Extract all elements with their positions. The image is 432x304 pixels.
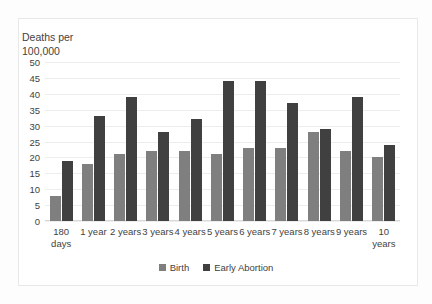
bar-early-abortion [94, 116, 105, 221]
bar-birth [308, 132, 319, 221]
bar-birth [50, 196, 61, 221]
bar-early-abortion [223, 81, 234, 221]
bar-early-abortion [384, 145, 395, 221]
bar-early-abortion [126, 97, 137, 221]
y-axis-tick-label: 20 [10, 152, 40, 163]
plot-area: 05101520253035404550 [45, 62, 400, 221]
legend-label: Early Abortion [214, 262, 273, 273]
legend-item[interactable]: Early Abortion [203, 262, 273, 273]
y-axis-tick-label: 40 [10, 88, 40, 99]
legend-label: Birth [170, 262, 190, 273]
bar-birth [146, 151, 157, 221]
bar-early-abortion [255, 81, 266, 221]
bar-birth [82, 164, 93, 221]
bar-group [206, 62, 238, 221]
bar-early-abortion [62, 161, 73, 221]
bar-early-abortion [191, 119, 202, 221]
legend-swatch-icon [159, 264, 166, 271]
bar-birth [340, 151, 351, 221]
bar-group [174, 62, 206, 221]
gridline [45, 221, 400, 222]
chart-screenshot: Deaths per 100,000 05101520253035404550 … [0, 0, 432, 304]
bar-birth [275, 148, 286, 221]
bar-early-abortion [320, 129, 331, 221]
y-axis-tick-label: 50 [10, 57, 40, 68]
y-axis-tick-label: 0 [10, 216, 40, 227]
legend-swatch-icon [203, 264, 210, 271]
bar-group [110, 62, 142, 221]
y-axis-tick-label: 35 [10, 104, 40, 115]
bar-group [77, 62, 109, 221]
bar-birth [179, 151, 190, 221]
y-axis-tick-label: 15 [10, 168, 40, 179]
bar-birth [211, 154, 222, 221]
bar-group [303, 62, 335, 221]
bar-group [239, 62, 271, 221]
bar-group [335, 62, 367, 221]
bar-group [142, 62, 174, 221]
legend-item[interactable]: Birth [159, 262, 190, 273]
y-axis-tick-label: 10 [10, 184, 40, 195]
chart-legend: BirthEarly Abortion [0, 262, 432, 273]
bar-birth [372, 157, 383, 221]
bar-group [271, 62, 303, 221]
bar-group [45, 62, 77, 221]
y-axis-tick-label: 45 [10, 72, 40, 83]
bar-early-abortion [352, 97, 363, 221]
y-axis-title: Deaths per 100,000 [22, 30, 142, 58]
bar-group [368, 62, 400, 221]
bar-early-abortion [287, 103, 298, 221]
y-axis-tick-label: 5 [10, 200, 40, 211]
y-axis-tick-label: 25 [10, 136, 40, 147]
y-axis-tick-label: 30 [10, 120, 40, 131]
bar-birth [114, 154, 125, 221]
bar-groups [45, 62, 400, 221]
bar-birth [243, 148, 254, 221]
bar-early-abortion [158, 132, 169, 221]
